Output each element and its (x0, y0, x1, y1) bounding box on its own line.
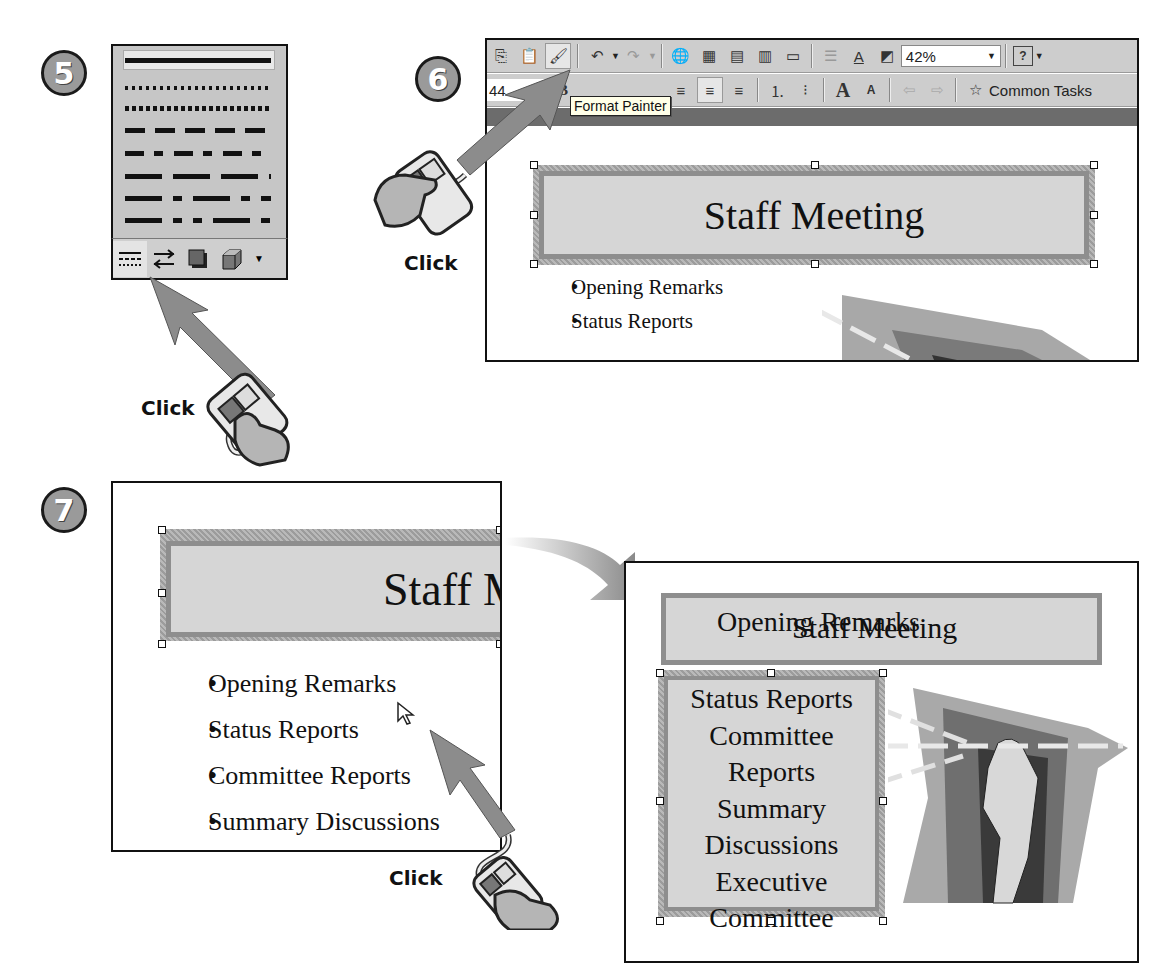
tables-borders-button[interactable]: ▦ (697, 44, 721, 68)
align-right-button[interactable]: ≡ (727, 78, 751, 102)
cursor-icon (396, 701, 416, 727)
slide-title-partial[interactable]: Staff M (166, 541, 502, 637)
decrease-font-button[interactable]: A (859, 78, 883, 102)
increase-font-button[interactable]: A (831, 78, 855, 102)
undo-button[interactable]: ↶ (585, 44, 609, 68)
insert-table-button[interactable]: ▤ (725, 44, 749, 68)
insert-hyperlink-button[interactable]: 🌐 (669, 44, 693, 68)
dash-style-long-dash-dot-dot[interactable] (125, 218, 271, 223)
slide-bullets: Opening Remarks Status Reports Committee… (175, 661, 440, 845)
clipart-image (822, 290, 1139, 362)
show-formatting-button[interactable]: A (847, 44, 871, 68)
click-label-step5: Click (141, 396, 195, 420)
dash-style-dash[interactable] (125, 128, 271, 133)
zoom-select[interactable]: 42%▼ (901, 45, 1001, 67)
format-painter-tooltip: Format Painter (570, 96, 671, 116)
bullet-item[interactable]: Opening Remarks (531, 270, 723, 304)
insert-chart-button[interactable]: ▥ (753, 44, 777, 68)
click-arrow-step6 (365, 65, 585, 265)
slide-bullets: Opening Remarks Status Reports (531, 270, 723, 338)
grayscale-button[interactable]: ◩ (875, 44, 899, 68)
dash-style-square-dot[interactable] (125, 106, 271, 111)
dash-style-dash-dot[interactable] (125, 151, 271, 156)
paintbrush-icon: 🖌 (549, 47, 568, 65)
dash-style-long-dash-dot[interactable] (125, 196, 271, 201)
result-title: Staff Meeting (792, 611, 957, 645)
dash-style-round-dot[interactable] (125, 86, 271, 90)
common-tasks-button[interactable]: Common Tasks (989, 82, 1092, 99)
step-7-badge: 7 (41, 487, 87, 533)
help-button[interactable]: ? (1013, 46, 1033, 66)
dash-style-solid[interactable] (125, 58, 271, 63)
click-label-step7: Click (389, 866, 443, 890)
star-icon: ☆ (963, 78, 987, 102)
click-arrow-step7 (420, 720, 570, 930)
dash-style-long-dash[interactable] (125, 174, 271, 179)
center-button[interactable]: ≡ (697, 77, 723, 103)
redo-button[interactable]: ↷ (622, 44, 646, 68)
click-label-step6: Click (404, 251, 458, 275)
bullets-button[interactable]: ⁝ (793, 78, 817, 102)
step-5-badge: 5 (41, 50, 87, 96)
align-left-button[interactable]: ≡ (669, 78, 693, 102)
bullet-item[interactable]: Summary Discussions (175, 799, 440, 845)
mouse-hand-icon (205, 370, 305, 470)
dash-style-list (113, 46, 285, 240)
slide-title[interactable]: Staff Meeting (539, 171, 1089, 259)
slide-after: Opening Remarks Staff Meeting Status Rep… (624, 561, 1139, 963)
bullet-item[interactable]: Committee Reports (175, 753, 440, 799)
expand-button[interactable]: ☰ (819, 44, 843, 68)
promote-button[interactable]: ⇦ (897, 78, 921, 102)
bullet-item[interactable]: Status Reports (531, 304, 723, 338)
chevron-down-icon: ▼ (987, 51, 996, 61)
new-slide-button[interactable]: ▭ (781, 44, 805, 68)
result-body-text[interactable]: Status Reports Committee Reports Summary… (658, 681, 885, 937)
demote-button[interactable]: ⇨ (925, 78, 949, 102)
transition-arrow (500, 530, 640, 610)
businessman-clipart (888, 688, 1128, 908)
numbering-button[interactable]: ⒈ (765, 78, 789, 102)
